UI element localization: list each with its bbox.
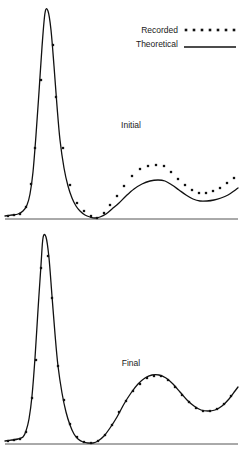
data-point <box>123 185 125 187</box>
legend-entry-theoretical: Theoretical <box>136 39 236 49</box>
data-point <box>167 379 169 381</box>
data-point <box>63 399 65 401</box>
data-point <box>132 390 134 392</box>
panel-label-final: Final <box>122 358 141 368</box>
data-point <box>209 410 211 412</box>
data-point <box>97 440 99 442</box>
data-point <box>216 408 218 410</box>
data-point <box>25 206 27 208</box>
data-point <box>139 168 141 170</box>
data-point <box>170 171 172 173</box>
data-point <box>191 189 193 191</box>
data-point <box>139 383 141 385</box>
theoretical-curve-initial <box>5 9 238 218</box>
data-point <box>19 438 21 440</box>
data-point <box>109 204 111 206</box>
data-point <box>195 407 197 409</box>
legend-dot <box>217 29 220 32</box>
legend-dot <box>185 29 188 32</box>
data-point <box>90 215 92 217</box>
data-point <box>13 439 15 441</box>
data-point <box>62 147 64 149</box>
data-point <box>202 410 204 412</box>
data-point <box>125 400 127 402</box>
data-point <box>31 397 33 399</box>
data-point <box>76 202 78 204</box>
data-point <box>146 377 148 379</box>
panel-initial: Initial <box>5 9 238 219</box>
data-point <box>83 210 85 212</box>
data-point <box>174 386 176 388</box>
legend-label-theoretical: Theoretical <box>136 39 178 49</box>
data-point <box>177 178 179 180</box>
data-point <box>52 44 54 46</box>
data-point <box>40 79 42 81</box>
data-point <box>76 436 78 438</box>
legend-dot <box>225 29 228 32</box>
legend-entry-recorded: Recorded <box>141 25 235 35</box>
data-point <box>57 365 59 367</box>
data-point <box>30 183 32 185</box>
data-point <box>131 175 133 177</box>
data-point <box>223 403 225 405</box>
data-point <box>111 424 113 426</box>
data-point <box>155 164 157 166</box>
data-point <box>34 147 36 149</box>
legend: Recorded Theoretical <box>136 25 236 49</box>
data-point <box>198 192 200 194</box>
data-point <box>69 423 71 425</box>
data-point <box>19 213 21 215</box>
data-point <box>226 182 228 184</box>
recorded-dots-initial <box>7 44 235 219</box>
legend-dot <box>201 29 204 32</box>
data-point <box>116 195 118 197</box>
data-point <box>181 394 183 396</box>
data-point <box>47 255 49 257</box>
panel-final: Final <box>5 234 238 444</box>
data-point <box>219 187 221 189</box>
data-point <box>118 411 120 413</box>
data-point <box>7 440 9 442</box>
data-point <box>90 442 92 444</box>
legend-dot <box>193 29 196 32</box>
data-point <box>13 214 15 216</box>
data-point <box>233 177 235 179</box>
legend-marker-recorded-dots <box>185 29 236 32</box>
legend-label-recorded: Recorded <box>141 25 178 35</box>
data-point <box>205 192 207 194</box>
data-point <box>7 215 9 217</box>
data-point <box>188 401 190 403</box>
legend-dot <box>233 29 236 32</box>
data-point <box>160 375 162 377</box>
data-point <box>51 297 53 299</box>
legend-dot <box>209 29 212 32</box>
data-point <box>153 375 155 377</box>
data-point <box>55 96 57 98</box>
data-point <box>103 212 105 214</box>
data-point <box>212 190 214 192</box>
data-point <box>230 395 232 397</box>
data-point <box>83 441 85 443</box>
data-point <box>35 359 37 361</box>
data-point <box>40 267 42 269</box>
recorded-dots-final <box>7 255 232 444</box>
data-point <box>163 165 165 167</box>
data-point <box>96 217 98 219</box>
data-point <box>184 184 186 186</box>
spectra-comparison-figure: Initial Final Recorded Theoretical <box>0 0 242 454</box>
panel-label-initial: Initial <box>121 120 141 130</box>
data-point <box>69 184 71 186</box>
data-point <box>147 165 149 167</box>
data-point <box>104 434 106 436</box>
data-point <box>25 431 27 433</box>
